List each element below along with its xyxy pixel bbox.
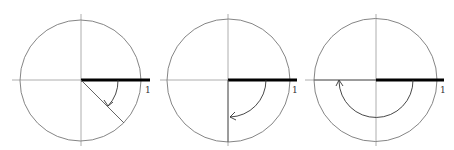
unit-circle-figure: 1 1 1 <box>0 0 454 150</box>
unit-circle-diagram-1: 1 <box>12 14 151 146</box>
rotation-arc <box>230 80 266 117</box>
unit-label: 1 <box>440 85 446 95</box>
unit-label: 1 <box>292 85 298 95</box>
unit-circle-diagram-2: 1 <box>160 14 298 146</box>
unit-label: 1 <box>145 85 151 95</box>
arrowhead-icon <box>230 112 236 120</box>
unit-circle-diagram-3: 1 <box>305 14 446 146</box>
